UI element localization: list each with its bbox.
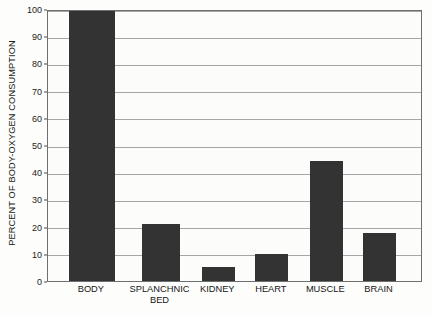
y-tick-label-90: 90 xyxy=(32,32,42,42)
x-label: BRAIN xyxy=(334,284,424,295)
plot-area xyxy=(47,10,422,282)
bar[interactable] xyxy=(310,161,343,281)
y-tick-label-40: 40 xyxy=(32,168,42,178)
y-tick-label-50: 50 xyxy=(32,141,42,151)
bars-group xyxy=(48,11,421,281)
y-axis-title: PERCENT OF BODY-OXYGEN CONSUMPTION xyxy=(0,0,24,285)
y-tick-label-0: 0 xyxy=(37,277,42,287)
x-axis-category-labels: BODYSPLANCHNIC BEDKIDNEYHEARTMUSCLEBRAIN xyxy=(47,284,422,315)
chart-page: PERCENT OF BODY-OXYGEN CONSUMPTION 01020… xyxy=(0,0,432,315)
bar[interactable] xyxy=(363,233,396,281)
y-axis-tick-labels: 0102030405060708090100 xyxy=(22,10,44,282)
y-tick-label-80: 80 xyxy=(32,59,42,69)
y-tick-label-70: 70 xyxy=(32,87,42,97)
bar[interactable] xyxy=(142,224,180,281)
bar[interactable] xyxy=(255,254,288,281)
y-axis-title-text: PERCENT OF BODY-OXYGEN CONSUMPTION xyxy=(7,40,17,246)
y-tick-label-100: 100 xyxy=(27,5,42,15)
y-tick-label-60: 60 xyxy=(32,114,42,124)
y-tick-label-10: 10 xyxy=(32,250,42,260)
bar[interactable] xyxy=(202,267,235,281)
y-tick-label-20: 20 xyxy=(32,223,42,233)
bar[interactable] xyxy=(69,10,115,281)
y-tick-label-30: 30 xyxy=(32,195,42,205)
